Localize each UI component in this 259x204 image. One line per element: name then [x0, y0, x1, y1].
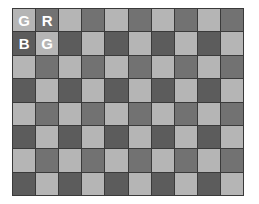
cell-g [105, 56, 127, 78]
cell-label: R [42, 12, 53, 29]
cell-g [129, 32, 151, 54]
cell-g [105, 149, 127, 171]
cell-g [175, 126, 197, 148]
cell-r [221, 103, 243, 125]
cell-r [82, 103, 104, 125]
cell-label: G [18, 12, 30, 29]
cell-b [59, 79, 81, 101]
cell-g [129, 126, 151, 148]
cell-g [152, 149, 174, 171]
cell-g [82, 173, 104, 195]
cell-b [152, 126, 174, 148]
cell-b [59, 126, 81, 148]
cell-g [82, 79, 104, 101]
cell-g [59, 56, 81, 78]
cell-b [152, 32, 174, 54]
cell-g [221, 32, 243, 54]
cell-g [175, 32, 197, 54]
cell-b: B [13, 32, 35, 54]
cell-b [59, 173, 81, 195]
cell-b [105, 173, 127, 195]
cell-g [13, 103, 35, 125]
cell-r [175, 56, 197, 78]
cell-g [198, 56, 220, 78]
cell-g [82, 32, 104, 54]
cell-b [13, 126, 35, 148]
cell-b [198, 79, 220, 101]
cell-g [105, 9, 127, 31]
cell-b [198, 173, 220, 195]
cell-r [175, 103, 197, 125]
cell-g [175, 79, 197, 101]
cell-r [221, 56, 243, 78]
cell-r [175, 9, 197, 31]
cell-r: R [36, 9, 58, 31]
cell-r [129, 9, 151, 31]
cell-b [152, 79, 174, 101]
cell-r [129, 149, 151, 171]
cell-g [198, 149, 220, 171]
cell-b [105, 126, 127, 148]
cell-b [105, 79, 127, 101]
cell-g [36, 79, 58, 101]
cell-r [129, 103, 151, 125]
cell-r [175, 149, 197, 171]
cell-b [13, 79, 35, 101]
cell-g [36, 126, 58, 148]
cell-g [36, 173, 58, 195]
cell-g: G [13, 9, 35, 31]
cell-g [13, 149, 35, 171]
cell-r [82, 9, 104, 31]
cell-g: G [36, 32, 58, 54]
cell-r [221, 9, 243, 31]
cell-r [36, 149, 58, 171]
cell-b [198, 126, 220, 148]
cell-r [36, 103, 58, 125]
cell-b [198, 32, 220, 54]
cell-b [152, 173, 174, 195]
cell-r [82, 56, 104, 78]
cell-r [82, 149, 104, 171]
cell-g [13, 56, 35, 78]
cell-b [13, 173, 35, 195]
cell-g [175, 173, 197, 195]
cell-r [129, 56, 151, 78]
cell-g [129, 173, 151, 195]
cell-label: B [19, 35, 30, 52]
cell-g [59, 149, 81, 171]
cell-g [221, 79, 243, 101]
cell-b [105, 32, 127, 54]
cell-b [59, 32, 81, 54]
cell-g [152, 56, 174, 78]
cell-label: G [41, 35, 53, 52]
bayer-grid: GRBG [12, 8, 244, 196]
cell-g [129, 79, 151, 101]
cell-g [82, 126, 104, 148]
cell-g [198, 103, 220, 125]
cell-g [59, 103, 81, 125]
cell-g [221, 173, 243, 195]
cell-g [221, 126, 243, 148]
cell-g [198, 9, 220, 31]
cell-r [36, 56, 58, 78]
cell-g [152, 9, 174, 31]
cell-r [221, 149, 243, 171]
cell-g [152, 103, 174, 125]
cell-g [59, 9, 81, 31]
cell-g [105, 103, 127, 125]
